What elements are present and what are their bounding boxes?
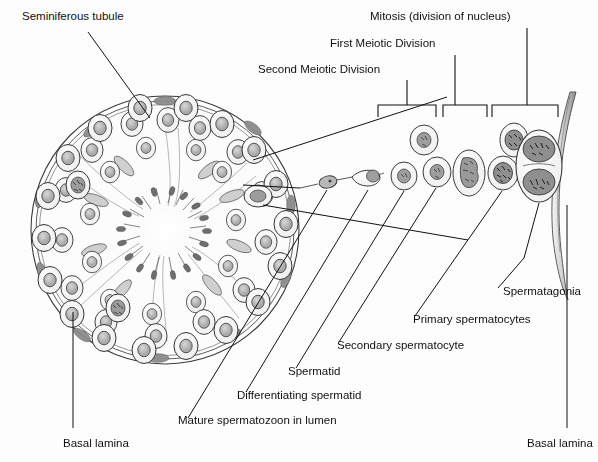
cell-spermatid <box>391 162 417 190</box>
label-mitosis: Mitosis (division of nucleus) <box>370 10 511 23</box>
bracket-first-meiotic <box>443 105 487 117</box>
label-spermatid: Spermatid <box>288 365 340 378</box>
cell-spermatid-upper <box>410 125 438 155</box>
cell-secondary-spermatocyte <box>423 157 451 187</box>
basal-lamina-wall-right <box>552 92 576 300</box>
leader-spermatogonia-2 <box>524 203 539 258</box>
cell-primary-spermatocyte-lower <box>488 156 518 190</box>
leader-spermatogonia <box>498 258 524 288</box>
germ-cell-series <box>300 123 562 202</box>
label-primary-spermatocytes: Primary spermatocytes <box>413 313 531 326</box>
figure-canvas: Seminiferous tubule Mitosis (division of… <box>0 0 598 462</box>
label-seminiferous-tubule: Seminiferous tubule <box>22 10 124 23</box>
cell-primary-spermatocyte-elongate <box>453 150 485 196</box>
cell-differentiating-spermatid <box>352 170 384 186</box>
label-mature-spermatozoon: Mature spermatozoon in lumen <box>178 414 337 427</box>
label-spermatogonia: Spermatagonia <box>503 285 581 298</box>
cell-spermatogonia-dividing-pair <box>516 130 562 202</box>
bracket-mitosis <box>492 105 558 117</box>
label-differentiating-spermatid: Differentiating spermatid <box>237 389 361 402</box>
tubule-cross-section <box>31 95 299 365</box>
label-basal-lamina-right: Basal lamina <box>527 437 593 450</box>
leader-primary-spermatocytes <box>415 191 502 316</box>
label-second-meiotic-division: Second Meiotic Division <box>258 63 380 76</box>
label-first-meiotic-division: First Meiotic Division <box>330 37 435 50</box>
label-basal-lamina-left: Basal lamina <box>63 437 129 450</box>
label-secondary-spermatocyte: Secondary spermatocyte <box>337 339 464 352</box>
bracket-second-meiotic <box>378 105 436 117</box>
cell-mature-spermatozoon <box>300 174 352 189</box>
